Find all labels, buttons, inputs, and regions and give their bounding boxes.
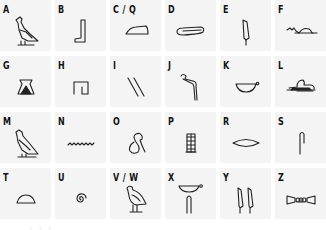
cell-r: R — [220, 112, 271, 163]
cell-v-w: V / W — [110, 168, 161, 219]
quail-chick-icon — [118, 182, 154, 216]
cobra-icon — [173, 70, 209, 104]
cell-z: Z — [275, 168, 326, 219]
double-stroke-icon — [118, 70, 154, 104]
hill-slope-icon — [118, 14, 154, 48]
cell-i: I — [110, 56, 161, 107]
basket-icon — [228, 70, 264, 104]
bread-loaf-icon — [8, 182, 44, 216]
cell-s: S — [275, 112, 326, 163]
double-reed-icon — [228, 182, 264, 216]
cell-k: K — [220, 56, 271, 107]
cell-y: Y — [220, 168, 271, 219]
letter-label: I — [113, 60, 116, 71]
cell-h: H — [55, 56, 106, 107]
cell-j: J — [165, 56, 216, 107]
water-ripple-icon — [63, 126, 99, 160]
folded-cloth-icon — [283, 126, 319, 160]
letter-label: J — [168, 60, 171, 71]
jar-stand-icon — [8, 70, 44, 104]
cell-f: F — [275, 0, 326, 51]
cell-e: E — [220, 0, 271, 51]
hieroglyph-alphabet-grid: A B C / Q D — [0, 0, 326, 219]
cell-x: X — [165, 168, 216, 219]
cell-a: A — [0, 0, 51, 51]
basket-and-cloth-icon — [173, 182, 209, 216]
cell-o: O — [110, 112, 161, 163]
hand-icon — [173, 14, 209, 48]
cell-d: D — [165, 0, 216, 51]
courtyard-icon — [63, 70, 99, 104]
cell-t: T — [0, 168, 51, 219]
cell-g: G — [0, 56, 51, 107]
cell-b: B — [55, 0, 106, 51]
horned-viper-icon — [283, 14, 319, 48]
cell-c-q: C / Q — [110, 0, 161, 51]
rope-loop-icon — [118, 126, 154, 160]
owl-icon — [8, 126, 44, 160]
cell-p: P — [165, 112, 216, 163]
reed-leaf-icon — [228, 14, 264, 48]
cell-n: N — [55, 112, 106, 163]
lion-icon — [283, 70, 319, 104]
cell-m: M — [0, 112, 51, 163]
cell-l: L — [275, 56, 326, 107]
stool-icon — [173, 126, 209, 160]
quail-chick-spiral-icon — [63, 182, 99, 216]
footer-text: . . . — [30, 224, 53, 230]
vulture-icon — [8, 14, 44, 48]
mouth-icon — [228, 126, 264, 160]
cell-u: U — [55, 168, 106, 219]
foot-icon — [63, 14, 99, 48]
door-bolt-icon — [283, 182, 319, 216]
